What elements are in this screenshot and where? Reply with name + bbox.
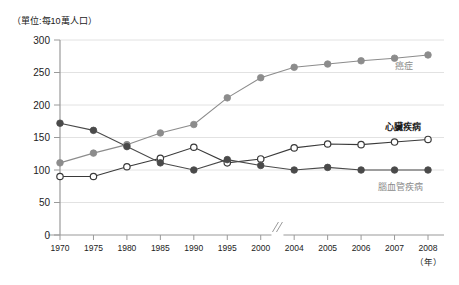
x-tick-label: 1990 [184,243,203,253]
series-label-cancer: 癌症 [395,60,413,71]
data-point [157,160,164,167]
data-point [90,173,96,179]
y-axis [54,40,60,235]
x-tick-label: 2007 [385,243,404,253]
x-tick-label: 1980 [117,243,136,253]
data-point [191,121,198,128]
data-point [57,173,63,179]
data-point [324,141,330,147]
series-line [60,55,428,163]
x-tick-label: 2005 [318,243,337,253]
data-point [57,160,64,167]
data-point [224,156,231,163]
x-tick-label: 2008 [419,243,438,253]
data-point [258,156,264,162]
y-tick-label: 100 [33,165,50,176]
series-lines [60,55,428,177]
series-line [60,139,428,176]
series-label-heart: 心臟疾病 [385,121,421,132]
y-tick-label: 250 [33,67,50,78]
x-axis [48,235,444,240]
data-point [291,145,297,151]
x-tick-label: 1985 [151,243,170,253]
data-point [157,130,164,137]
series-labels: 癌症心臟疾病腦血管疾病 [378,60,423,192]
y-tick-labels: 050100150200250300 [33,35,50,241]
x-tick-label: 1975 [84,243,103,253]
data-point [257,74,264,81]
y-tick-label: 300 [33,35,50,46]
data-point [324,61,331,68]
y-tick-label: 50 [39,197,51,208]
data-point [90,127,97,134]
data-point [257,162,264,169]
data-point [324,164,331,171]
x-tick-label: 2000 [251,243,270,253]
axis-break-marker [271,222,283,237]
data-point [124,143,131,150]
data-point [291,167,298,174]
data-point [191,144,197,150]
x-tick-label: 1970 [51,243,70,253]
y-tick-label: 0 [44,230,50,241]
series-line [60,123,428,170]
data-point [391,167,398,174]
x-axis-unit-label: （年） [415,257,442,267]
data-point [425,167,432,174]
x-tick-label: 1995 [218,243,237,253]
line-chart-svg: 050100150200250300 197019751980198519901… [0,0,459,285]
x-axis-unit-text: （年） [415,257,442,267]
data-point [358,141,364,147]
data-point [224,95,231,102]
x-tick-label: 2006 [352,243,371,253]
data-point [90,150,97,157]
data-point [124,164,130,170]
x-tick-label: 2004 [285,243,304,253]
data-point [425,136,431,142]
y-tick-label: 150 [33,132,50,143]
data-point [358,58,365,65]
data-point [358,167,365,174]
y-tick-label: 200 [33,100,50,111]
data-point [425,52,432,59]
data-point [391,139,397,145]
data-point [57,120,64,127]
chart-container: （單位:每10萬人口） 050100150200250300 197019751… [0,0,459,285]
x-tick-labels: 1970197519801985199019952000200420052006… [51,243,438,253]
data-point [291,64,298,71]
data-point [191,167,198,174]
series-label-cerebro: 腦血管疾病 [378,181,423,192]
